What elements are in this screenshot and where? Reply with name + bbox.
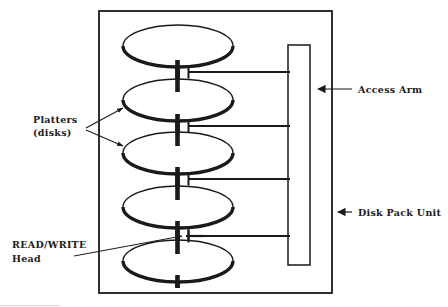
platters-label-line2: (disks)	[33, 127, 72, 138]
read-write-head-label-line2: Head	[12, 253, 41, 264]
annotation-disk-pack-unit: Disk Pack Unit	[338, 207, 442, 218]
access-arm-label: Access Arm	[357, 84, 422, 95]
annotation-access-arm: Access Arm	[318, 84, 422, 95]
platters-label-line1: Platters	[33, 114, 77, 125]
disk-pack-diagram: Access Arm Disk Pack Unit Platters (disk…	[0, 0, 448, 307]
read-write-head-label-line1: READ/WRITE	[12, 239, 87, 250]
figure-canvas: Access Arm Disk Pack Unit Platters (disk…	[0, 0, 448, 307]
access-arm-bar	[288, 45, 310, 265]
disk-pack-unit-label: Disk Pack Unit	[358, 207, 442, 218]
